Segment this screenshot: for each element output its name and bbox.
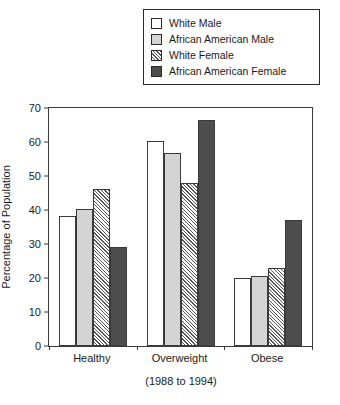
y-axis-tick-mark bbox=[44, 142, 49, 143]
x-axis-tick-mark bbox=[49, 346, 50, 350]
bar-group-healthy bbox=[59, 108, 127, 346]
y-axis-tick: 70 bbox=[21, 103, 49, 114]
bar-group-overweight bbox=[147, 108, 215, 346]
x-axis-tick-label: Overweight bbox=[152, 352, 208, 364]
y-axis-tick: 20 bbox=[21, 273, 49, 284]
y-axis-tick-label: 0 bbox=[21, 341, 41, 352]
y-axis-tick: 50 bbox=[21, 171, 49, 182]
legend-label: White Male bbox=[169, 18, 222, 29]
x-axis-tick-label: Healthy bbox=[73, 352, 110, 364]
y-axis-tick-mark bbox=[44, 312, 49, 313]
bar bbox=[198, 120, 215, 346]
legend-swatch-african-american-male bbox=[151, 34, 162, 45]
legend-swatch-african-american-female bbox=[151, 66, 162, 77]
chart-legend: White Male African American Male White F… bbox=[143, 9, 320, 85]
bar bbox=[147, 141, 164, 346]
y-axis-tick: 40 bbox=[21, 205, 49, 216]
y-axis-tick-label: 10 bbox=[21, 307, 41, 318]
y-axis-tick-mark bbox=[44, 108, 49, 109]
y-axis-tick-mark bbox=[44, 176, 49, 177]
bar bbox=[164, 153, 181, 346]
legend-swatch-white-female bbox=[151, 50, 162, 61]
legend-swatch-white-male bbox=[151, 18, 162, 29]
bar bbox=[181, 183, 198, 346]
legend-label: White Female bbox=[169, 50, 234, 61]
y-axis-tick-label: 20 bbox=[21, 273, 41, 284]
legend-item: White Female bbox=[151, 47, 312, 63]
legend-item: African American Male bbox=[151, 31, 312, 47]
x-axis-tick-mark bbox=[137, 346, 138, 350]
y-axis-tick-mark bbox=[44, 278, 49, 279]
bar bbox=[59, 216, 76, 346]
x-axis-tick-mark bbox=[224, 346, 225, 350]
y-axis-tick: 10 bbox=[21, 307, 49, 318]
bar bbox=[93, 189, 110, 346]
y-axis-title: Percentage of Population bbox=[0, 165, 12, 289]
x-axis-title: (1988 to 1994) bbox=[145, 375, 217, 387]
bar-group-obese bbox=[234, 108, 302, 346]
y-axis-tick-mark bbox=[44, 244, 49, 245]
y-axis-tick-label: 70 bbox=[21, 103, 41, 114]
legend-label: African American Male bbox=[169, 34, 274, 45]
bar bbox=[110, 247, 127, 346]
y-axis-tick-label: 30 bbox=[21, 239, 41, 250]
bar bbox=[234, 278, 251, 346]
bar bbox=[251, 276, 268, 346]
bar bbox=[268, 268, 285, 346]
bar bbox=[285, 220, 302, 346]
plot-area: 010203040506070 bbox=[49, 108, 312, 346]
x-axis-tick-mark bbox=[312, 346, 313, 350]
y-axis-tick-label: 40 bbox=[21, 205, 41, 216]
y-axis-tick: 60 bbox=[21, 137, 49, 148]
y-axis-tick: 0 bbox=[21, 341, 49, 352]
y-axis-tick-label: 60 bbox=[21, 137, 41, 148]
legend-item: African American Female bbox=[151, 63, 312, 79]
legend-item: White Male bbox=[151, 15, 312, 31]
x-axis-tick-label: Obese bbox=[251, 352, 283, 364]
legend-label: African American Female bbox=[169, 66, 286, 77]
y-axis-tick-mark bbox=[44, 210, 49, 211]
y-axis-tick: 30 bbox=[21, 239, 49, 250]
y-axis-tick-label: 50 bbox=[21, 171, 41, 182]
bar bbox=[76, 209, 93, 346]
plot-frame: 010203040506070 bbox=[48, 107, 313, 347]
